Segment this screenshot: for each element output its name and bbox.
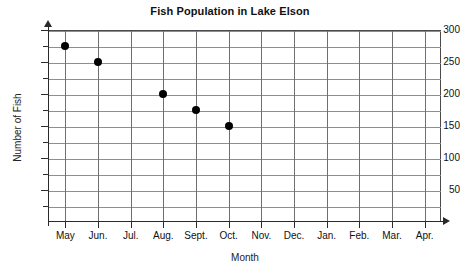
horizontal-gridline xyxy=(49,207,441,208)
x-axis-tick xyxy=(163,221,164,228)
y-axis-tick-label: 250 xyxy=(422,56,460,67)
x-axis-tick xyxy=(229,221,230,228)
y-axis-tick-minor xyxy=(43,46,49,47)
vertical-gridline xyxy=(131,31,132,223)
horizontal-gridline xyxy=(49,79,441,80)
y-axis-tick-major xyxy=(41,126,49,127)
horizontal-gridline xyxy=(49,127,441,128)
y-axis-tick-label: 50 xyxy=(422,184,460,195)
x-axis-tick xyxy=(131,221,132,228)
horizontal-gridline xyxy=(49,63,441,64)
vertical-gridline xyxy=(65,31,66,223)
y-axis-tick-major xyxy=(41,158,49,159)
x-axis-tick-label: Apr. xyxy=(402,230,448,241)
vertical-gridline xyxy=(196,31,197,223)
y-axis-label: Number of Fish xyxy=(12,73,23,183)
vertical-gridline xyxy=(261,31,262,223)
horizontal-gridline xyxy=(49,159,441,160)
x-axis-tick xyxy=(65,221,66,228)
x-axis-tick xyxy=(294,221,295,228)
y-axis-tick-minor xyxy=(43,78,49,79)
horizontal-gridline xyxy=(49,191,441,192)
chart-container: Fish Population in Lake Elson Number of … xyxy=(0,0,460,272)
vertical-gridline xyxy=(359,31,360,223)
chart-title: Fish Population in Lake Elson xyxy=(0,5,460,17)
y-axis-tick-minor xyxy=(43,174,49,175)
x-axis-tick xyxy=(392,221,393,228)
horizontal-gridline xyxy=(49,31,441,32)
horizontal-gridline xyxy=(49,95,441,96)
y-axis-tick-minor xyxy=(43,206,49,207)
y-axis-tick-label: 100 xyxy=(422,152,460,163)
vertical-gridline xyxy=(163,31,164,223)
y-axis-tick-minor xyxy=(43,142,49,143)
vertical-gridline xyxy=(392,31,393,223)
vertical-gridline xyxy=(294,31,295,223)
x-axis-tick xyxy=(359,221,360,228)
x-axis-line xyxy=(48,221,446,222)
y-axis-tick-major xyxy=(41,62,49,63)
y-axis-tick-label: 300 xyxy=(422,24,460,35)
x-axis-tick xyxy=(261,221,262,228)
horizontal-gridline xyxy=(49,47,441,48)
y-axis-tick-label: 200 xyxy=(422,88,460,99)
y-axis-tick-minor xyxy=(43,110,49,111)
x-axis-tick xyxy=(425,221,426,228)
data-point xyxy=(225,122,233,130)
x-axis-arrow-icon xyxy=(443,217,450,225)
data-point xyxy=(94,58,102,66)
horizontal-gridline xyxy=(49,175,441,176)
vertical-gridline xyxy=(327,31,328,223)
x-axis-tick xyxy=(196,221,197,228)
y-axis-arrow-icon xyxy=(44,20,52,27)
plot-area xyxy=(49,30,441,222)
horizontal-gridline xyxy=(49,143,441,144)
x-axis-tick xyxy=(327,221,328,228)
y-axis-tick-label: 150 xyxy=(422,120,460,131)
horizontal-gridline xyxy=(49,111,441,112)
x-axis-tick xyxy=(98,221,99,228)
y-axis-tick-major xyxy=(41,30,49,31)
x-axis-label: Month xyxy=(45,252,445,263)
data-point xyxy=(192,106,200,114)
y-axis-tick-major xyxy=(41,190,49,191)
y-axis-tick-major xyxy=(41,94,49,95)
